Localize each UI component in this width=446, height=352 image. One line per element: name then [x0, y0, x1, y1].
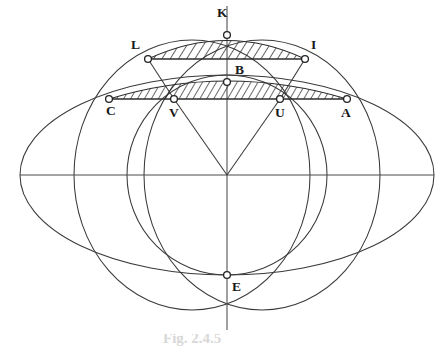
point-label-L: L	[131, 38, 140, 52]
vertex-U	[277, 96, 284, 103]
vertex-I	[302, 56, 309, 63]
point-label-U: U	[275, 106, 285, 120]
point-label-I: I	[311, 38, 316, 52]
radius-center-V	[174, 99, 227, 175]
point-label-K: K	[217, 6, 228, 20]
vertex-L	[145, 56, 152, 63]
point-label-E: E	[232, 280, 241, 294]
point-label-V: V	[169, 106, 179, 120]
point-label-B: B	[235, 63, 244, 77]
geometric-diagram	[0, 0, 446, 352]
vertex-K	[224, 32, 231, 39]
vertex-A	[344, 96, 351, 103]
figure-caption: Fig. 2.4.5	[163, 334, 221, 347]
vertex-E	[224, 272, 231, 279]
figure-root: K L I B C V U A E Fig. 2.4.5	[0, 0, 446, 352]
caption-strip: Fig. 2.4.5	[0, 334, 446, 352]
vertex-V	[171, 96, 178, 103]
radius-center-U	[227, 99, 280, 175]
point-label-A: A	[341, 106, 351, 120]
vertex-C	[106, 96, 113, 103]
hatched-region-upper	[148, 41, 305, 60]
vertex-B	[224, 79, 231, 86]
point-label-C: C	[106, 104, 116, 118]
